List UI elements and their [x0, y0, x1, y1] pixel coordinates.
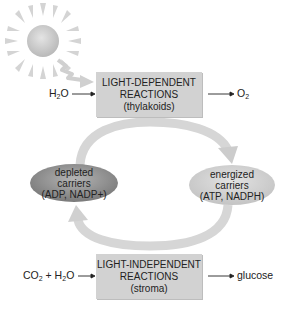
light-independent-title: LIGHT-INDEPENDENT — [97, 259, 201, 271]
light-ray-arrow-icon — [58, 60, 94, 88]
water-input-label: H2O — [49, 87, 69, 100]
depleted-carriers-node: depleted carriers (ADP, NADP+) — [30, 164, 118, 202]
depleted-line3: (ADP, NADP+) — [41, 189, 106, 200]
co2-water-input-label: CO2 + H2O — [23, 269, 74, 282]
cycle-arrow-top-icon — [80, 122, 238, 165]
oxygen-output-label: O2 — [237, 87, 249, 100]
energized-line2: carriers — [215, 180, 248, 191]
energized-line3: (ATP, NADPH) — [200, 191, 265, 202]
light-independent-subtitle: REACTIONS — [120, 271, 178, 283]
glucose-output-label: glucose — [237, 269, 273, 281]
light-dependent-title: LIGHT-DEPENDENT — [102, 77, 196, 89]
energized-line1: energized — [210, 169, 254, 180]
energized-carriers-node: energized carriers (ATP, NADPH) — [189, 165, 275, 205]
sun-icon — [5, 3, 81, 79]
light-independent-reactions-box: LIGHT-INDEPENDENT REACTIONS (stroma) — [96, 254, 202, 299]
cycle-arrow-bottom-icon — [68, 205, 228, 246]
light-dependent-reactions-box: LIGHT-DEPENDENT REACTIONS (thylakoids) — [96, 72, 202, 117]
light-independent-location: (stroma) — [130, 283, 167, 295]
depleted-line2: carriers — [57, 178, 90, 189]
depleted-line1: depleted — [55, 167, 93, 178]
light-dependent-location: (thylakoids) — [123, 101, 174, 113]
light-dependent-subtitle: REACTIONS — [120, 89, 178, 101]
